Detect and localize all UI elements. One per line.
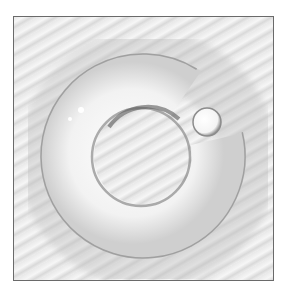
- ring-photo: [14, 17, 274, 281]
- ring-bead: [193, 108, 221, 136]
- highlight-speck: [68, 117, 72, 121]
- photo-frame: [13, 16, 274, 281]
- highlight-speck: [78, 107, 84, 113]
